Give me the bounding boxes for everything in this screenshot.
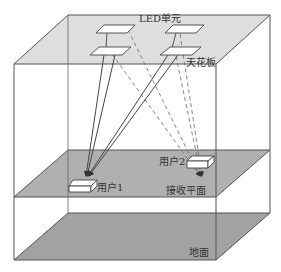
ceiling-label: 天花板 bbox=[186, 56, 216, 68]
receiving-plane bbox=[14, 150, 270, 197]
receiving-plane-label: 接收平面 bbox=[166, 184, 206, 196]
user1-receiver bbox=[69, 180, 97, 192]
led-unit-label: LED单元 bbox=[139, 13, 181, 24]
vlc-scene-diagram: LED单元 天花板 用户1 用户2 接收平面 地面 bbox=[0, 0, 281, 272]
floor-label: 地面 bbox=[189, 246, 209, 258]
user2-receiver bbox=[187, 156, 214, 168]
floor-plane bbox=[14, 213, 270, 260]
user2-label: 用户2 bbox=[159, 155, 185, 167]
user1-label: 用户1 bbox=[97, 181, 123, 193]
